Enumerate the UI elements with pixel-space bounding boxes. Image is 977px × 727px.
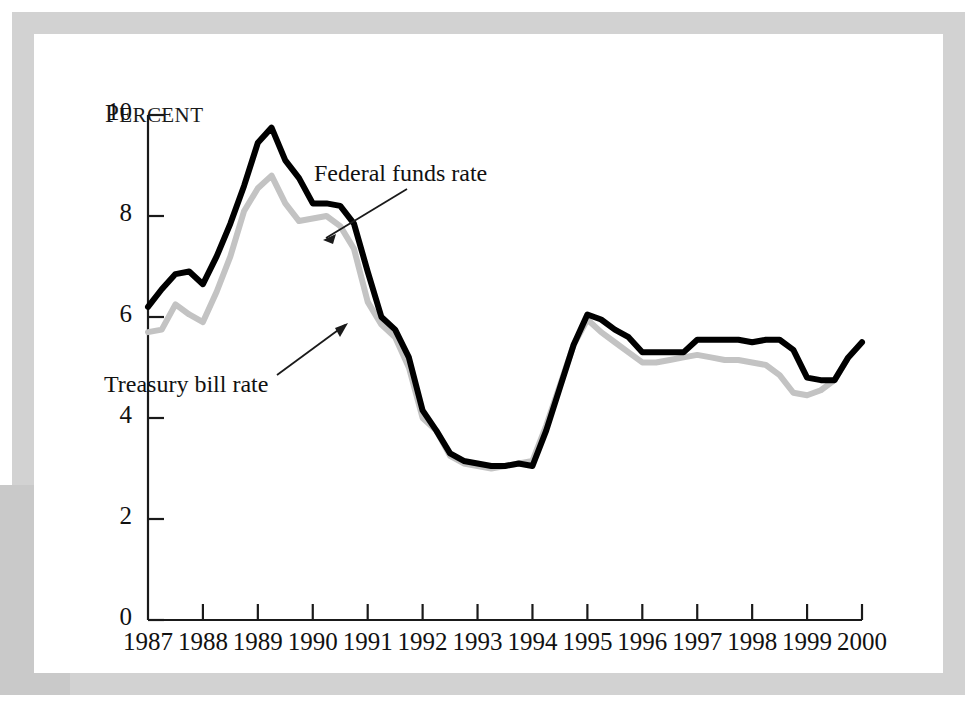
chart-plate: PERCENT 0246810 198719881989199019911992… xyxy=(34,34,943,673)
page-frame-top xyxy=(12,12,965,34)
page-frame-left-upper xyxy=(12,12,34,485)
page-frame-left-lower xyxy=(0,485,34,695)
annotation-federal-funds-rate: Federal funds rate xyxy=(314,160,487,187)
page-frame-right xyxy=(943,12,965,695)
y-axis-tick-label: 2 xyxy=(86,502,132,530)
y-axis-tick-label: 6 xyxy=(86,300,132,328)
page-frame-bottom-tail xyxy=(0,673,70,695)
x-axis-tick-label: 2000 xyxy=(822,628,902,656)
x-axis-ticks xyxy=(203,604,862,620)
y-axis-tick-label: 8 xyxy=(86,199,132,227)
federal-funds-rate-leader-line xyxy=(326,189,407,238)
chart-page: PERCENT 0246810 198719881989199019911992… xyxy=(0,0,977,727)
series-line-treasury-bill-rate xyxy=(148,176,862,469)
page-frame-bottom xyxy=(12,673,965,695)
treasury-bill-rate-leader-arrowhead xyxy=(335,323,348,337)
y-axis-tick-label: 10 xyxy=(86,98,132,126)
y-axis-tick-label: 4 xyxy=(86,401,132,429)
treasury-bill-rate-leader-line xyxy=(277,325,345,375)
annotation-treasury-bill-rate: Treasury bill rate xyxy=(104,371,268,398)
y-axis-tick-label: 0 xyxy=(86,603,132,631)
y-axis-ticks xyxy=(148,115,164,620)
series-group xyxy=(148,128,862,469)
chart-canvas xyxy=(34,34,943,673)
series-line-federal-funds-rate xyxy=(148,128,862,466)
